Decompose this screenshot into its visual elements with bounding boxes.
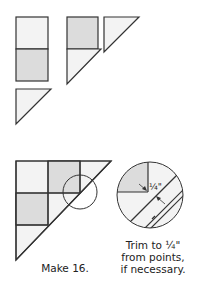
assembled-unit — [16, 161, 111, 260]
detail-view — [110, 155, 200, 245]
quarter-inch-label: ¼" — [149, 182, 162, 192]
trim-caption-line: Trim to ¼" — [112, 239, 194, 251]
make-caption: Make 16. — [30, 262, 100, 274]
square-triangle-unit — [67, 17, 101, 84]
trim-caption-line: if necessary. — [112, 263, 194, 275]
trim-caption-line: from points, — [112, 251, 194, 263]
two-patch-unit — [16, 17, 48, 81]
triangle-piece — [104, 17, 139, 52]
trim-caption: Trim to ¼" from points, if necessary. — [112, 239, 194, 275]
triangle-piece — [16, 89, 51, 124]
